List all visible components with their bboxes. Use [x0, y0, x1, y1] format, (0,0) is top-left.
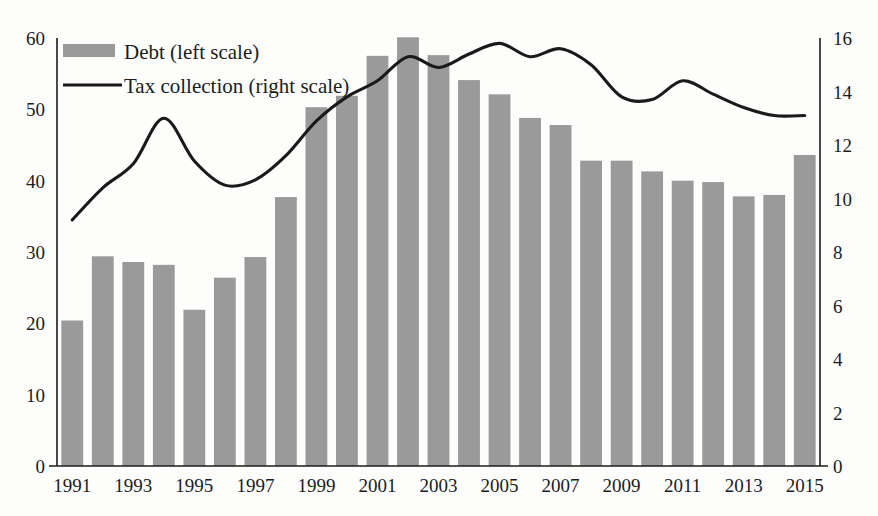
right-tick-8: 8 [833, 242, 843, 263]
x-tick-2009: 2009 [603, 475, 641, 496]
x-tick-2015: 2015 [786, 475, 824, 496]
bar-2010 [641, 171, 663, 466]
legend-label-tax-collection: Tax collection (right scale) [124, 74, 349, 98]
x-tick-1991: 1991 [53, 475, 91, 496]
bar-1998 [275, 197, 297, 466]
right-tick-6: 6 [833, 296, 843, 317]
bar-1996 [214, 278, 236, 466]
left-tick-50: 50 [26, 99, 45, 120]
right-axis-tick-labels: 0246810121416 [833, 28, 853, 477]
bar-2000 [336, 96, 358, 466]
x-tick-1997: 1997 [236, 475, 274, 496]
bar-1992 [92, 256, 114, 466]
x-tick-2003: 2003 [420, 475, 458, 496]
x-tick-1995: 1995 [175, 475, 213, 496]
bar-1999 [306, 107, 328, 466]
left-tick-30: 30 [26, 242, 45, 263]
bar-2009 [611, 161, 633, 466]
bar-2003 [428, 55, 450, 466]
bar-2008 [580, 161, 602, 466]
bar-2014 [763, 195, 785, 466]
left-tick-40: 40 [26, 171, 45, 192]
bar-2002 [397, 37, 419, 466]
left-tick-60: 60 [26, 28, 45, 49]
bar-series-debt [61, 37, 815, 466]
legend-swatch-debt [63, 44, 115, 57]
bar-2011 [672, 181, 694, 466]
bar-2013 [733, 196, 755, 466]
bar-1995 [183, 310, 205, 466]
bar-2006 [519, 118, 541, 466]
bar-2012 [702, 182, 724, 466]
bar-2015 [794, 155, 816, 466]
bar-2001 [367, 56, 389, 466]
bar-1997 [244, 257, 266, 466]
x-tick-2011: 2011 [664, 475, 701, 496]
right-tick-4: 4 [833, 349, 843, 370]
x-tick-1999: 1999 [297, 475, 335, 496]
bar-2004 [458, 80, 480, 466]
legend-label-debt: Debt (left scale) [124, 40, 259, 64]
right-tick-10: 10 [833, 189, 852, 210]
x-axis-tick-labels: 1991199319951997199920012003200520072009… [53, 475, 823, 496]
debt-tax-dual-axis-chart: 0102030405060 0246810121416 199119931995… [0, 0, 878, 516]
right-tick-12: 12 [833, 135, 852, 156]
x-tick-2013: 2013 [725, 475, 763, 496]
bar-1994 [153, 265, 175, 466]
bar-2005 [489, 94, 511, 466]
right-tick-0: 0 [833, 456, 843, 477]
left-tick-0: 0 [36, 456, 46, 477]
bar-1991 [61, 320, 83, 466]
chart-container: 0102030405060 0246810121416 199119931995… [0, 0, 878, 516]
x-tick-2005: 2005 [481, 475, 519, 496]
right-tick-16: 16 [833, 28, 852, 49]
left-axis-tick-labels: 0102030405060 [26, 28, 45, 477]
x-tick-2001: 2001 [358, 475, 396, 496]
bar-1993 [122, 262, 144, 466]
left-tick-10: 10 [26, 385, 45, 406]
x-tick-2007: 2007 [542, 475, 580, 496]
x-tick-1993: 1993 [114, 475, 152, 496]
left-tick-20: 20 [26, 313, 45, 334]
right-tick-14: 14 [833, 82, 853, 103]
bar-2007 [550, 125, 572, 466]
chart-legend: Debt (left scale) Tax collection (right … [63, 40, 349, 98]
right-tick-2: 2 [833, 403, 843, 424]
